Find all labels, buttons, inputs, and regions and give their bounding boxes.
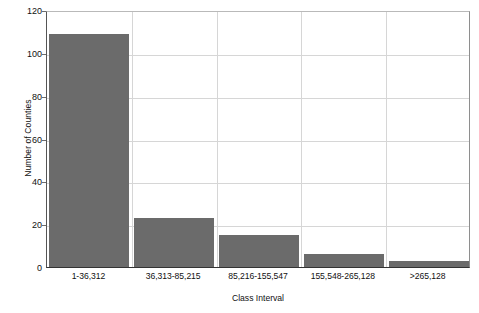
y-axis-tick-group: 020406080100120: [0, 11, 42, 268]
x-axis-tick-label: 85,216-155,547: [216, 271, 301, 281]
bar: [304, 254, 384, 267]
y-axis-tick-label: 0: [2, 263, 42, 273]
gridline-vertical: [217, 12, 218, 267]
x-axis-tick-label: 155,548-265,128: [300, 271, 385, 281]
gridline-vertical: [132, 12, 133, 267]
x-axis-tick-label: >265,128: [385, 271, 470, 281]
y-axis-tick-label: 120: [2, 6, 42, 16]
bar: [219, 235, 299, 267]
bar: [389, 261, 469, 267]
bar: [49, 34, 129, 267]
y-axis-tick-label: 80: [2, 92, 42, 102]
cropped-caption-strip: [22, 307, 462, 312]
gridline-vertical: [301, 12, 302, 267]
x-axis-tick-group: 1-36,31236,313-85,21585,216-155,547155,5…: [46, 271, 470, 287]
bar: [134, 218, 214, 267]
gridline-vertical: [386, 12, 387, 267]
x-axis-title: Class Interval: [46, 293, 470, 303]
y-axis-tick-label: 20: [2, 220, 42, 230]
y-axis-tick-label: 100: [2, 49, 42, 59]
bar-chart-figure: Number of Counties 020406080100120 1-36,…: [0, 0, 479, 313]
y-axis-tick-label: 60: [2, 135, 42, 145]
x-axis-tick-label: 1-36,312: [46, 271, 131, 281]
plot-area: [46, 11, 470, 268]
y-axis-tick-label: 40: [2, 177, 42, 187]
x-axis-tick-label: 36,313-85,215: [131, 271, 216, 281]
